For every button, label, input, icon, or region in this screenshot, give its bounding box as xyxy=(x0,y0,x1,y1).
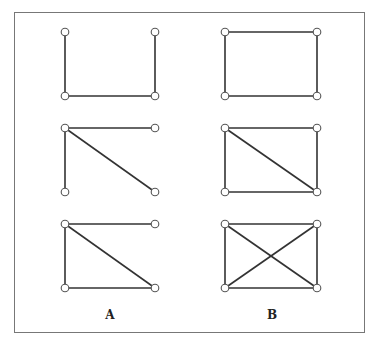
node xyxy=(151,92,159,100)
edge xyxy=(65,128,155,192)
graph-B3 xyxy=(221,220,321,292)
node xyxy=(313,220,321,228)
node xyxy=(151,124,159,132)
node xyxy=(61,92,69,100)
node xyxy=(313,92,321,100)
node xyxy=(151,28,159,36)
node xyxy=(313,188,321,196)
node xyxy=(221,28,229,36)
node xyxy=(313,124,321,132)
node xyxy=(221,188,229,196)
node xyxy=(61,284,69,292)
graph-A1 xyxy=(61,28,159,100)
node xyxy=(151,284,159,292)
node xyxy=(61,220,69,228)
node xyxy=(313,28,321,36)
node xyxy=(61,28,69,36)
edge xyxy=(225,128,317,192)
node xyxy=(221,284,229,292)
node xyxy=(151,220,159,228)
edge xyxy=(65,224,155,288)
node xyxy=(151,188,159,196)
column-label-a: A xyxy=(105,308,114,322)
graph-B1 xyxy=(221,28,321,100)
graph-A2 xyxy=(61,124,159,196)
node xyxy=(61,188,69,196)
node xyxy=(221,220,229,228)
node xyxy=(313,284,321,292)
graph-B2 xyxy=(221,124,321,196)
node xyxy=(61,124,69,132)
column-label-b: B xyxy=(267,308,277,322)
graph-diagram xyxy=(0,0,381,341)
graph-A3 xyxy=(61,220,159,292)
node xyxy=(221,92,229,100)
node xyxy=(221,124,229,132)
